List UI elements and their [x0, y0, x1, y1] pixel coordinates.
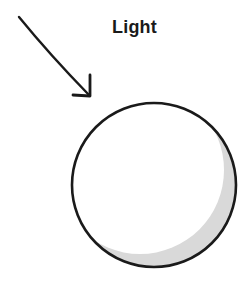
sphere-shadow	[56, 86, 236, 267]
arrow-shaft	[19, 17, 89, 95]
diagram-canvas	[0, 0, 250, 283]
light-label: Light	[112, 17, 157, 38]
light-shading-diagram: Light	[0, 0, 250, 283]
